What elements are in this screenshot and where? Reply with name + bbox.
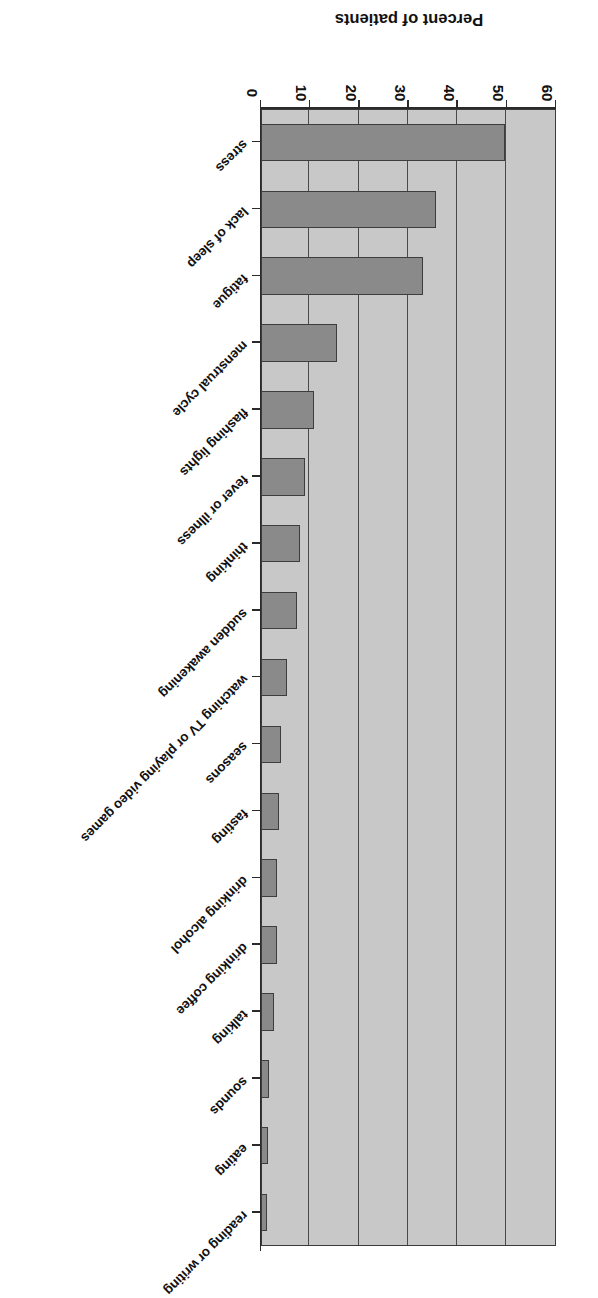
value-axis-tick xyxy=(358,100,360,109)
gridline xyxy=(456,110,457,1245)
category-label: sounds xyxy=(207,1074,251,1118)
category-label: stress xyxy=(213,138,251,176)
value-axis-tick-label: 50 xyxy=(490,85,507,102)
category-axis-tick xyxy=(252,1144,261,1146)
value-axis-tick xyxy=(309,100,311,109)
category-label: seasons xyxy=(203,740,251,788)
category-label: flashing lights xyxy=(177,405,251,479)
bar xyxy=(261,191,436,228)
category-axis-tick xyxy=(252,1010,261,1012)
bar xyxy=(261,257,423,294)
category-label: eating xyxy=(213,1141,251,1179)
category-axis-tick xyxy=(252,408,261,410)
category-axis-tick xyxy=(252,475,261,477)
value-axis-tick xyxy=(555,100,557,109)
bar xyxy=(261,993,273,1030)
category-axis-tick xyxy=(252,676,261,678)
category-label: thinking xyxy=(204,539,251,586)
category-axis-tick xyxy=(252,208,261,210)
gridline xyxy=(505,110,506,1245)
value-axis-tick-label: 30 xyxy=(392,85,409,102)
value-axis-tick-label: 10 xyxy=(293,85,310,102)
category-label: fatigue xyxy=(210,271,251,312)
bar xyxy=(261,1060,269,1097)
category-axis-tick xyxy=(252,141,261,143)
value-axis-title: Percent of patients xyxy=(335,10,484,29)
category-label: lack of sleep xyxy=(184,205,251,272)
category-axis-tick xyxy=(252,1211,261,1213)
bar xyxy=(261,1127,268,1164)
value-axis-tick xyxy=(456,100,458,109)
bar xyxy=(261,525,299,562)
value-axis-tick-label: 0 xyxy=(244,89,261,97)
value-axis-tick-label: 20 xyxy=(343,85,360,102)
category-label: fasting xyxy=(210,806,251,847)
category-label: reading or writing xyxy=(161,1208,251,1298)
category-axis-tick xyxy=(252,943,261,945)
category-axis-tick xyxy=(252,743,261,745)
category-axis-tick xyxy=(252,877,261,879)
category-axis-tick xyxy=(252,1077,261,1079)
bar xyxy=(261,926,276,963)
bar xyxy=(261,726,281,763)
bar xyxy=(261,458,305,495)
category-label: fever or illness xyxy=(174,472,251,549)
value-axis-tick xyxy=(260,100,262,109)
value-axis-tick xyxy=(407,100,409,109)
bar xyxy=(261,324,337,361)
value-axis-tick-label: 60 xyxy=(539,85,556,102)
bar xyxy=(261,793,279,830)
bar xyxy=(261,659,287,696)
category-axis-tick xyxy=(252,542,261,544)
value-axis-tick-label: 40 xyxy=(441,85,458,102)
bar xyxy=(261,124,504,161)
category-axis-tick xyxy=(252,609,261,611)
bar xyxy=(261,391,314,428)
bar xyxy=(261,859,277,896)
bar xyxy=(261,1194,267,1231)
value-axis-tick xyxy=(506,100,508,109)
category-label: talking xyxy=(210,1007,251,1048)
category-axis-tick xyxy=(252,275,261,277)
bar xyxy=(261,592,297,629)
category-axis-tick xyxy=(252,810,261,812)
category-axis-tick xyxy=(252,342,261,344)
